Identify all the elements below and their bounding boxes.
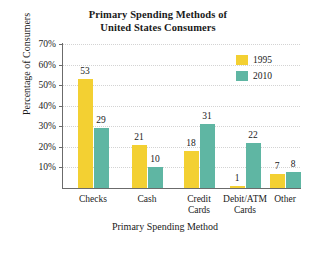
chart-title: Primary Spending Methods of United State… <box>0 9 316 34</box>
bar-debit-atm-cards-1995 <box>230 186 245 188</box>
legend-swatch-2010 <box>236 71 248 81</box>
y-axis-tick-label: 60% <box>16 61 56 71</box>
bar-debit-atm-cards-2010 <box>246 143 261 188</box>
gridline <box>63 44 300 45</box>
bar-other-1995 <box>270 174 285 188</box>
x-axis-tick-label-line: Other <box>255 194 315 205</box>
bar-credit-cards-1995 <box>184 151 199 188</box>
y-axis-tick <box>59 85 63 86</box>
y-axis-tick <box>59 126 63 127</box>
legend-item-1995[interactable]: 1995 <box>236 54 306 66</box>
chart-title-line-1: Primary Spending Methods of <box>0 9 316 22</box>
bar-cash-1995 <box>132 145 147 188</box>
bar-value-label: 8 <box>280 160 307 170</box>
bar-value-label: 21 <box>126 133 153 143</box>
bar-value-label: 53 <box>72 67 99 77</box>
y-axis-tick-label: 20% <box>16 143 56 153</box>
bar-value-label: 29 <box>88 116 115 126</box>
y-axis-tick <box>59 147 63 148</box>
x-axis-tick-label-line: Cash <box>117 194 177 205</box>
y-axis-tick-label: 50% <box>16 81 56 91</box>
bar-checks-1995 <box>78 79 93 188</box>
bar-other-2010 <box>286 172 301 188</box>
y-axis-tick <box>59 65 63 66</box>
bar-credit-cards-2010 <box>200 124 215 188</box>
x-axis-tick-label-line: Checks <box>63 194 123 205</box>
x-axis-tick-label-cash: Cash <box>117 194 177 205</box>
legend-label-2010: 2010 <box>253 71 272 81</box>
x-axis-tick-label-other: Other <box>255 194 315 205</box>
gridline <box>63 106 300 107</box>
y-axis-tick <box>59 106 63 107</box>
x-axis-label: Primary Spending Method <box>40 221 290 232</box>
bar-value-label: 10 <box>142 155 169 165</box>
x-axis-line <box>62 188 301 189</box>
bar-checks-2010 <box>94 128 109 188</box>
y-axis-tick-label: 30% <box>16 122 56 132</box>
y-axis-tick-label: 10% <box>16 163 56 173</box>
chart-figure: Primary Spending Methods of United State… <box>0 0 316 258</box>
bar-value-label: 31 <box>194 112 221 122</box>
legend-swatch-1995 <box>236 55 248 65</box>
chart-title-line-2: United States Consumers <box>0 22 316 35</box>
x-axis-tick-label-line: Cards <box>215 205 275 216</box>
x-axis-tick-label-checks: Checks <box>63 194 123 205</box>
legend-label-1995: 1995 <box>253 55 272 65</box>
y-axis-tick <box>59 44 63 45</box>
bar-cash-2010 <box>148 167 163 188</box>
y-axis-tick <box>59 167 63 168</box>
y-axis-tick-label: 40% <box>16 102 56 112</box>
gridline <box>63 126 300 127</box>
legend-item-2010[interactable]: 2010 <box>236 70 306 82</box>
y-axis-tick-label: 70% <box>16 40 56 50</box>
bar-value-label: 22 <box>240 131 267 141</box>
chart-legend: 19952010 <box>236 54 306 86</box>
